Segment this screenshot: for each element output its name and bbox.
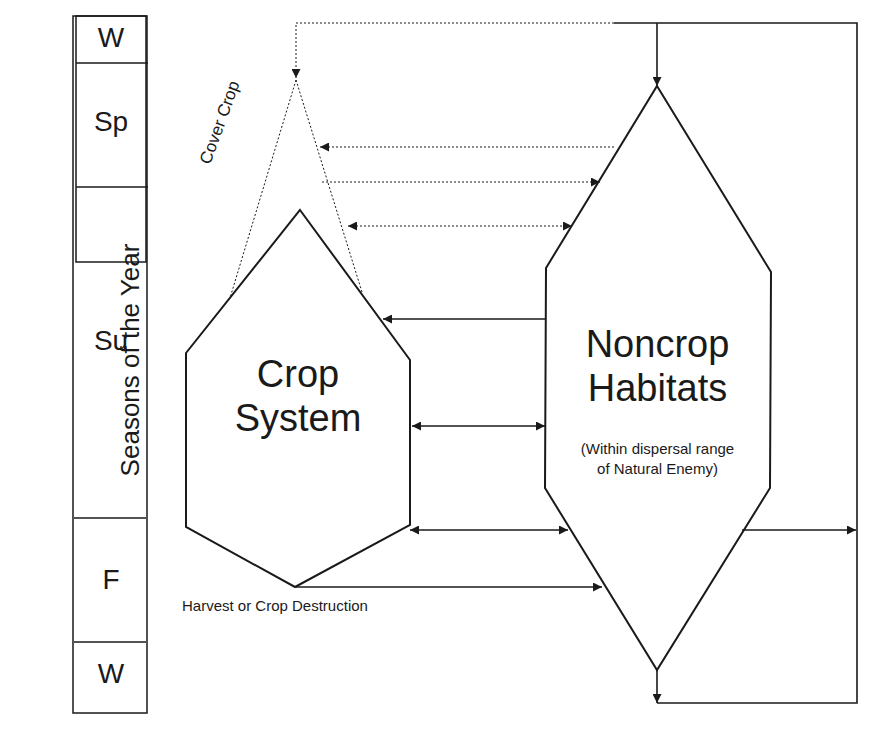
harvest-label: Harvest or Crop Destruction (182, 597, 368, 614)
noncrop-line1: Noncrop (550, 322, 765, 366)
season-summer: Su (76, 325, 146, 357)
dotted-arrows (320, 147, 614, 226)
season-winter-bottom: W (76, 658, 146, 690)
noncrop-note-line1: (Within dispersal range (550, 439, 765, 459)
season-winter-top: W (76, 22, 146, 54)
axis-title: Seasons of the Year (115, 244, 146, 477)
noncrop-line2: Habitats (550, 366, 765, 410)
season-fall: F (76, 564, 146, 596)
crop-system-line1: Crop (198, 352, 398, 396)
noncrop-habitats-label: Noncrop Habitats (550, 322, 765, 410)
noncrop-note: (Within dispersal range of Natural Enemy… (550, 439, 765, 479)
dotted-feedback-loop (296, 23, 614, 78)
noncrop-note-line2: of Natural Enemy) (550, 459, 765, 479)
crop-system-line2: System (198, 396, 398, 440)
season-spring: Sp (76, 106, 146, 138)
crop-system-label: Crop System (198, 352, 398, 440)
cover-crop-outline (230, 80, 362, 298)
